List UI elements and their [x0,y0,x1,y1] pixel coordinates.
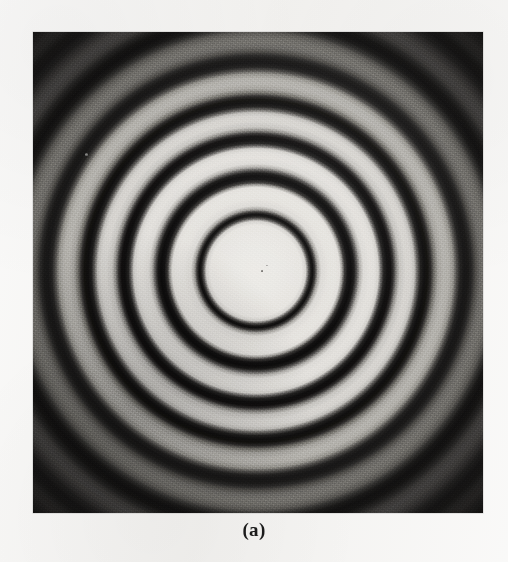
fringe-astigmatism-overlay [33,32,483,513]
figure-root: (a) [0,0,508,562]
figure-photograph [33,32,483,513]
figure-caption: (a) [0,519,508,541]
interference-ring-pattern [33,32,483,513]
